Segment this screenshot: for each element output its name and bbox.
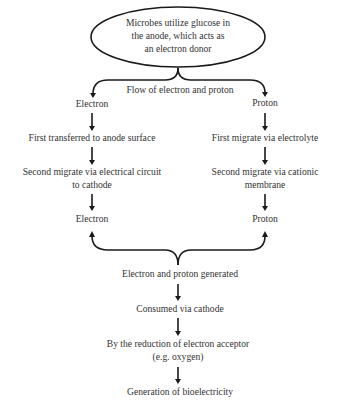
start-node-line-1: Microbes utilize glucose in bbox=[126, 16, 230, 29]
arrowhead-proton-3 bbox=[262, 206, 268, 211]
arrowhead-up-electron bbox=[89, 231, 95, 237]
arrowhead-center-2 bbox=[175, 331, 181, 336]
electron-step-2-line-2: to cathode bbox=[72, 178, 112, 191]
merge-brace-left bbox=[92, 236, 178, 265]
split-label: Flow of electron and proton bbox=[126, 83, 233, 96]
electron-tail: Electron bbox=[76, 212, 109, 225]
arrowhead-up-proton bbox=[262, 231, 268, 237]
merge-consumed: Consumed via cathode bbox=[136, 302, 223, 315]
electron-step-1: First transferred to anode surface bbox=[29, 131, 156, 144]
merge-result: Generation of bioelectricity bbox=[127, 385, 233, 398]
electron-head: Electron bbox=[76, 97, 109, 110]
start-node-line-2: the anode, which acts as bbox=[132, 29, 225, 42]
proton-step-2-line-2: membrane bbox=[245, 178, 286, 191]
proton-head: Proton bbox=[252, 96, 278, 109]
proton-step-2-line-1: Second migrate via cationic bbox=[212, 165, 319, 178]
merge-generated: Electron and proton generated bbox=[122, 267, 238, 280]
start-node-line-3: an electron donor bbox=[144, 42, 211, 55]
arrowhead-electron-3 bbox=[89, 206, 95, 211]
merge-brace-right bbox=[178, 236, 265, 265]
arrowhead-center-3 bbox=[175, 379, 181, 384]
merge-reduction-line-1: By the reduction of electron acceptor bbox=[107, 337, 250, 350]
merge-reduction-line-2: (e.g. oxygen) bbox=[153, 350, 204, 363]
arrowhead-center-1 bbox=[175, 296, 181, 301]
proton-tail: Proton bbox=[252, 212, 278, 225]
electron-step-2-line-1: Second migrate via electrical circuit bbox=[23, 165, 162, 178]
proton-step-1: First migrate via electrolyte bbox=[212, 131, 318, 144]
